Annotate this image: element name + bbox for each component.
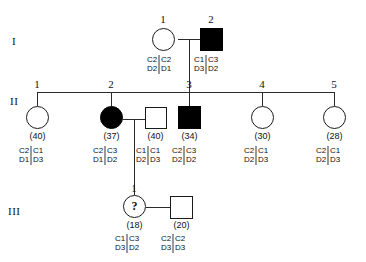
haplotype-allele-column: C2 D2 <box>316 146 326 165</box>
allele-bottom: D2 <box>172 155 182 164</box>
allele-top: C1 <box>150 146 160 155</box>
allele-top: C3 <box>186 146 196 155</box>
allele-bottom: D2 <box>186 155 196 164</box>
haplotype-allele-column: C1 D3 <box>33 146 43 165</box>
sib-stem-II-1 <box>37 92 38 106</box>
haplotype-allele-column: C2 D1 <box>161 55 171 74</box>
allele-top: C2 <box>175 234 185 243</box>
symbol-I-2-male-affected[interactable] <box>200 28 223 51</box>
age-label-II-2-spouse: (40) <box>140 131 171 141</box>
allele-top: C3 <box>129 234 139 243</box>
haplotype-allele-column: C3 D2 <box>208 55 218 74</box>
haplotype-allele-column: C2 D1 <box>19 146 29 165</box>
age-label-II-4: (30) <box>247 131 278 141</box>
haplotype-allele-column: C2 D2 <box>172 146 182 165</box>
allele-bottom: D2 <box>244 155 254 164</box>
haplotype-allele-column: C3 D2 <box>107 146 117 165</box>
haplotype-bar <box>255 146 257 165</box>
haplotype-II-3: C2 D2 C3 D2 <box>172 146 196 165</box>
symbol-I-1-female-unaffected[interactable] <box>152 28 175 51</box>
haplotype-I-1: C2 D2 C2 D1 <box>147 55 171 74</box>
haplotype-allele-column: C3 D2 <box>129 234 139 253</box>
allele-bottom: D2 <box>316 155 326 164</box>
allele-bottom: D2 <box>107 155 117 164</box>
id-number-III-1: 1 <box>123 182 145 194</box>
haplotype-II-2-spouse: C1 D2 C1 D3 <box>136 146 160 165</box>
haplotype-allele-column: C1 D3 <box>258 146 268 165</box>
haplotype-I-2: C1 D3 C3 D2 <box>194 55 218 74</box>
haplotype-allele-column: C1 D3 <box>194 55 204 74</box>
haplotype-II-4: C2 D2 C1 D3 <box>244 146 268 165</box>
id-number-II-1: 1 <box>26 78 48 90</box>
id-number-I-1: 1 <box>152 13 174 25</box>
haplotype-allele-column: C2 D2 <box>147 55 157 74</box>
haplotype-II-2: C2 D1 C3 D2 <box>93 146 117 165</box>
haplotype-bar <box>327 146 329 165</box>
allele-top: C1 <box>115 234 125 243</box>
age-label-II-1: (40) <box>22 131 53 141</box>
symbol-II-2-spouse-male-unaffected[interactable] <box>145 107 167 129</box>
haplotype-allele-column: C3 D2 <box>186 146 196 165</box>
allele-bottom: D1 <box>93 155 103 164</box>
haplotype-allele-column: C1 D3 <box>150 146 160 165</box>
symbol-II-3-male-affected[interactable] <box>178 106 201 129</box>
generation-label-I: I <box>12 35 16 47</box>
allele-bottom: D2 <box>208 64 218 73</box>
age-label-II-3: (34) <box>174 131 205 141</box>
haplotype-allele-column: C1 D3 <box>330 146 340 165</box>
id-number-I-2: 2 <box>200 13 222 25</box>
allele-bottom: D3 <box>258 155 268 164</box>
id-number-II-5: 5 <box>323 78 345 90</box>
haplotype-allele-column: C2 D3 <box>175 234 185 253</box>
generation-label-II: II <box>10 95 18 107</box>
sibship-line-gen2 <box>37 92 334 93</box>
allele-top: C2 <box>93 146 103 155</box>
haplotype-II-1: C2 D1 C1 D3 <box>19 146 43 165</box>
id-number-II-3: 3 <box>178 78 200 90</box>
haplotype-allele-column: C1 D3 <box>115 234 125 253</box>
haplotype-bar <box>172 234 174 253</box>
sib-stem-II-3 <box>189 92 190 106</box>
allele-top: C1 <box>194 55 204 64</box>
haplotype-allele-column: C2 D1 <box>93 146 103 165</box>
generation-label-III: III <box>8 205 21 217</box>
allele-top: C2 <box>161 55 171 64</box>
age-label-II-5: (28) <box>319 131 350 141</box>
symbol-II-2-female-affected[interactable] <box>100 106 123 129</box>
age-label-II-2: (37) <box>96 131 127 141</box>
allele-bottom: D3 <box>161 243 171 252</box>
allele-bottom: D2 <box>136 155 146 164</box>
allele-top: C2 <box>172 146 182 155</box>
allele-top: C1 <box>136 146 146 155</box>
age-label-III-1: (18) <box>119 220 150 230</box>
allele-bottom: D3 <box>150 155 160 164</box>
symbol-II-5-female-unaffected[interactable] <box>323 106 346 129</box>
symbol-II-4-female-unaffected[interactable] <box>251 106 274 129</box>
sib-stem-II-4 <box>262 92 263 106</box>
allele-bottom: D1 <box>161 64 171 73</box>
haplotype-bar <box>158 55 160 74</box>
haplotype-allele-column: C1 D2 <box>136 146 146 165</box>
pedigree-chart: I II III 1 C2 D2 C2 D1 2 C1 D3 C3 D2 <box>0 0 366 262</box>
allele-top: C1 <box>33 146 43 155</box>
sib-stem-II-5 <box>334 92 335 106</box>
symbol-II-1-female-unaffected[interactable] <box>26 106 49 129</box>
haplotype-bar <box>30 146 32 165</box>
haplotype-bar <box>205 55 207 74</box>
haplotype-allele-column: C2 D3 <box>161 234 171 253</box>
allele-bottom: D3 <box>33 155 43 164</box>
allele-top: C2 <box>244 146 254 155</box>
allele-bottom: D3 <box>330 155 340 164</box>
allele-bottom: D3 <box>175 243 185 252</box>
allele-top: C2 <box>161 234 171 243</box>
allele-bottom: D3 <box>115 243 125 252</box>
id-number-II-2: 2 <box>100 78 122 90</box>
haplotype-bar <box>147 146 149 165</box>
haplotype-II-5: C2 D2 C1 D3 <box>316 146 340 165</box>
age-label-III-1-spouse: (20) <box>166 220 197 230</box>
symbol-III-1-spouse-male-unaffected[interactable] <box>170 196 193 219</box>
allele-bottom: D3 <box>194 64 204 73</box>
haplotype-bar <box>183 146 185 165</box>
haplotype-bar <box>126 234 128 253</box>
haplotype-III-1-spouse: C2 D3 C2 D3 <box>161 234 185 253</box>
